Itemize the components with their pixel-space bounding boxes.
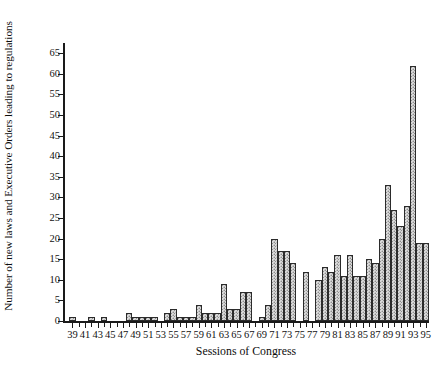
- x-tick-mark: [192, 323, 193, 327]
- x-tick-mark: [356, 323, 357, 327]
- y-axis-title: Number of new laws and Executive Orders …: [0, 0, 16, 332]
- x-tick-mark: [281, 323, 282, 327]
- bar: [88, 317, 94, 321]
- bar: [423, 243, 429, 321]
- x-tick-mark: [394, 323, 395, 327]
- bar: [246, 292, 252, 321]
- y-tick-label: 40: [50, 149, 61, 162]
- y-tick-label: 25: [50, 211, 61, 224]
- bar: [303, 272, 309, 321]
- y-tick-label: 15: [50, 252, 61, 265]
- y-tick-label: 45: [50, 129, 61, 142]
- x-tick-mark: [91, 323, 92, 327]
- x-tick-mark: [104, 323, 105, 327]
- x-tick-mark: [382, 323, 383, 327]
- x-tick-mark: [268, 323, 269, 327]
- x-tick-mark: [407, 323, 408, 327]
- x-tick-mark: [155, 323, 156, 327]
- y-axis-line: [63, 43, 65, 323]
- x-tick-mark: [230, 323, 231, 327]
- x-tick-mark: [180, 323, 181, 327]
- x-tick-mark: [369, 323, 370, 327]
- bar: [151, 317, 157, 321]
- bar: [290, 263, 296, 321]
- x-tick-mark: [331, 323, 332, 327]
- x-tick-mark: [293, 323, 294, 327]
- x-tick-mark: [344, 323, 345, 327]
- x-tick-mark: [306, 323, 307, 327]
- y-tick-label: 35: [50, 170, 61, 183]
- chart-figure: Number of new laws and Executive Orders …: [0, 0, 446, 376]
- x-tick-mark: [255, 323, 256, 327]
- x-tick-mark: [218, 323, 219, 327]
- x-tick-mark: [79, 323, 80, 327]
- y-tick-label: 50: [50, 108, 61, 121]
- y-tick-label: 20: [50, 232, 61, 245]
- x-axis-title: Sessions of Congress: [63, 344, 429, 359]
- x-tick-mark: [142, 323, 143, 327]
- bar: [69, 317, 75, 321]
- y-tick-label: 5: [55, 293, 60, 306]
- x-tick-mark: [420, 323, 421, 327]
- x-tick-mark: [117, 323, 118, 327]
- x-tick-mark: [167, 323, 168, 327]
- plot-area: 05101520253035404550556065 3941434547495…: [63, 43, 429, 323]
- bar: [101, 317, 107, 321]
- x-tick-mark: [319, 323, 320, 327]
- x-tick-mark: [205, 323, 206, 327]
- y-tick-label: 65: [50, 46, 61, 59]
- y-tick-label: 10: [50, 273, 61, 286]
- x-axis-line: [63, 321, 429, 323]
- figure-caption-clipped: [10, 369, 440, 376]
- y-tick-label: 30: [50, 190, 61, 203]
- y-tick-label: 55: [50, 87, 61, 100]
- x-tick-label: 95: [415, 328, 437, 341]
- y-tick-label: 0: [55, 314, 60, 327]
- x-tick-mark: [243, 323, 244, 327]
- x-tick-mark: [129, 323, 130, 327]
- y-tick-label: 60: [50, 67, 61, 80]
